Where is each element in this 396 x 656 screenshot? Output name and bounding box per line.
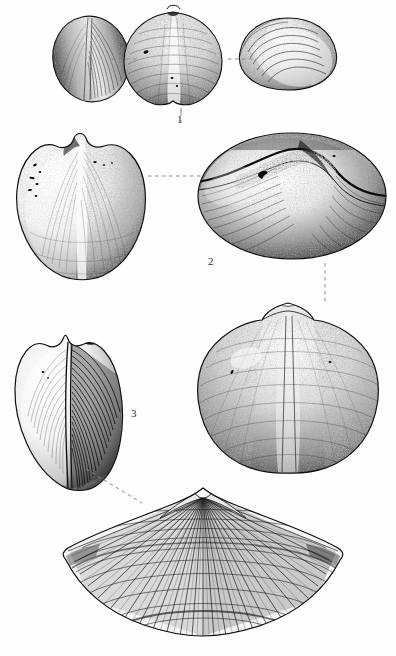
figure-3-lateral-view: [8, 330, 132, 496]
figure-1-anterior-view: [234, 12, 344, 96]
figure-1-lateral-view: [45, 9, 137, 109]
figure-label-3: 3: [131, 407, 137, 419]
figure-1-group: [45, 5, 344, 110]
figure-label-2: 2: [208, 255, 214, 267]
figure-2-anterior-view: [198, 133, 386, 263]
figure-3-ventral-view: [188, 298, 388, 480]
figure-3-group: [8, 298, 388, 640]
figure-1-ventral-view: [118, 5, 230, 110]
figure-2-dorsal-view: [10, 128, 154, 286]
figure-label-1: 1: [177, 113, 183, 125]
figure-2-group: [10, 128, 386, 286]
plate-illustration: [0, 0, 396, 656]
figure-3-fan-view: [58, 482, 350, 640]
plate-canvas: 1 2 3: [0, 0, 396, 656]
